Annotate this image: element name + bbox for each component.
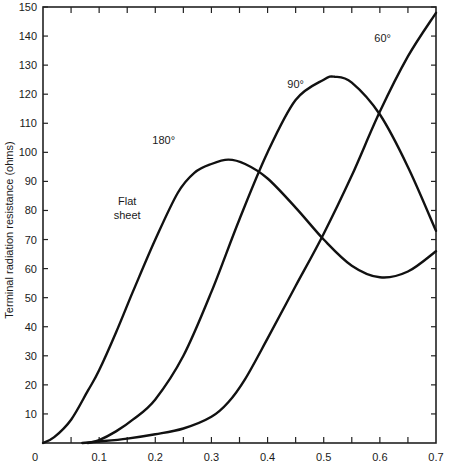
x-axis-ticks: 00.10.20.30.40.50.60.7 — [32, 7, 444, 463]
curve-90-degree — [88, 76, 436, 443]
chart: 102030405060708090100110120130140150 00.… — [0, 0, 450, 473]
x-tick-label: 0.2 — [148, 451, 163, 463]
axes — [43, 7, 436, 443]
curve-60-degree — [82, 13, 436, 443]
curve-label: sheet — [114, 209, 141, 221]
y-tick-label: 20 — [25, 379, 37, 391]
y-tick-label: 70 — [25, 234, 37, 246]
y-tick-label: 100 — [19, 146, 37, 158]
y-tick-label: 50 — [25, 292, 37, 304]
y-tick-label: 40 — [25, 321, 37, 333]
x-tick-label: 0 — [32, 451, 38, 463]
y-axis-label: Terminal radiation resistance (ohms) — [3, 141, 15, 318]
y-tick-label: 120 — [19, 88, 37, 100]
y-tick-label: 90 — [25, 175, 37, 187]
y-tick-label: 60 — [25, 263, 37, 275]
y-tick-label: 110 — [19, 117, 37, 129]
y-axis-ticks: 102030405060708090100110120130140150 — [19, 1, 436, 420]
x-tick-label: 0.3 — [204, 451, 219, 463]
curve-annotations: 180°Flatsheet90°60° — [114, 32, 391, 221]
y-tick-label: 30 — [25, 350, 37, 362]
x-tick-label: 0.5 — [316, 451, 331, 463]
curve-label: 90° — [287, 78, 304, 90]
curve-label: Flat — [118, 195, 136, 207]
x-tick-label: 0.1 — [91, 451, 106, 463]
curve-label: 60° — [374, 32, 391, 44]
y-tick-label: 80 — [25, 204, 37, 216]
plot-frame — [43, 7, 436, 443]
x-tick-label: 0.4 — [260, 451, 275, 463]
curves — [43, 13, 436, 443]
y-tick-label: 140 — [19, 30, 37, 42]
y-tick-label: 150 — [19, 1, 37, 13]
curve-label: 180° — [152, 134, 175, 146]
x-tick-label: 0.6 — [372, 451, 387, 463]
y-tick-label: 10 — [25, 408, 37, 420]
curve-180-degree — [43, 160, 436, 443]
y-tick-label: 130 — [19, 59, 37, 71]
x-tick-label: 0.7 — [428, 451, 443, 463]
